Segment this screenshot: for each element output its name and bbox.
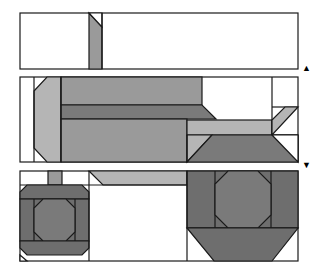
panel-top: [20, 13, 298, 69]
arrow-down-icon: ▼: [302, 161, 311, 170]
quilt-block-diagram: [0, 0, 317, 270]
panel-bottom: [20, 171, 298, 261]
panel-middle: [20, 77, 298, 162]
arrow-up-icon: ▲: [302, 64, 311, 73]
